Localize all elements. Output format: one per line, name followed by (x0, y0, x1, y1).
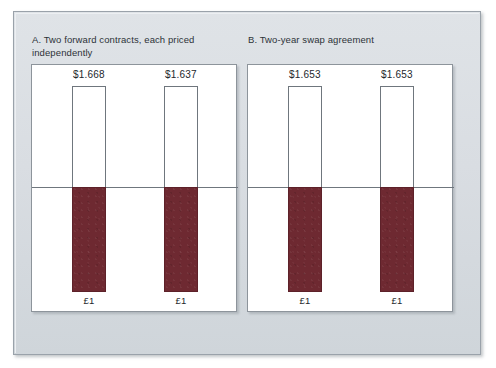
panel-b-bar-2-upper-segment (380, 86, 414, 188)
panel-a-plot-box: $1.668 £1 $1.637 £1 (31, 64, 237, 312)
figure-root: A. Two forward contracts, each priced in… (0, 0, 496, 368)
panel-b-bar-2-base-label: £1 (362, 295, 432, 306)
panel-b-plot-box: $1.653 £1 $1.653 £1 (247, 64, 453, 312)
panel-a-bar-group-2: $1.637 £1 (164, 65, 198, 313)
panel-b-bar-1-lower-segment (288, 187, 322, 292)
panel-b-bar-1-upper-segment (288, 86, 322, 188)
panel-b-bar-1-base-label: £1 (270, 295, 340, 306)
panel-a-bar-2-lower-segment (164, 187, 198, 292)
panel-b-bar-group-1: $1.653 £1 (288, 65, 322, 313)
panel-a-zero-line (32, 187, 238, 188)
panel-a-bar-1-value-label: $1.668 (54, 69, 124, 80)
panel-b-bar-2-lower-segment (380, 187, 414, 292)
panel-b-title: B. Two-year swap agreement (248, 34, 448, 47)
panel-b: B. Two-year swap agreement $1.653 £1 $1.… (247, 34, 453, 334)
panel-a-bar-1-base-label: £1 (54, 295, 124, 306)
panel-a-bar-2-value-label: $1.637 (146, 69, 216, 80)
panel-a: A. Two forward contracts, each priced in… (31, 34, 237, 334)
figure-plate: A. Two forward contracts, each priced in… (13, 11, 481, 355)
panel-a-bar-2-base-label: £1 (146, 295, 216, 306)
panel-a-bar-1-lower-segment (72, 187, 106, 292)
panel-a-bar-2-upper-segment (164, 86, 198, 188)
panel-b-zero-line (248, 187, 454, 188)
panel-b-bar-group-2: $1.653 £1 (380, 65, 414, 313)
panel-b-bar-1-value-label: $1.653 (270, 69, 340, 80)
panel-a-title: A. Two forward contracts, each priced in… (32, 34, 232, 59)
panel-a-bar-group-1: $1.668 £1 (72, 65, 106, 313)
panel-b-bar-2-value-label: $1.653 (362, 69, 432, 80)
panel-a-bar-1-upper-segment (72, 86, 106, 188)
